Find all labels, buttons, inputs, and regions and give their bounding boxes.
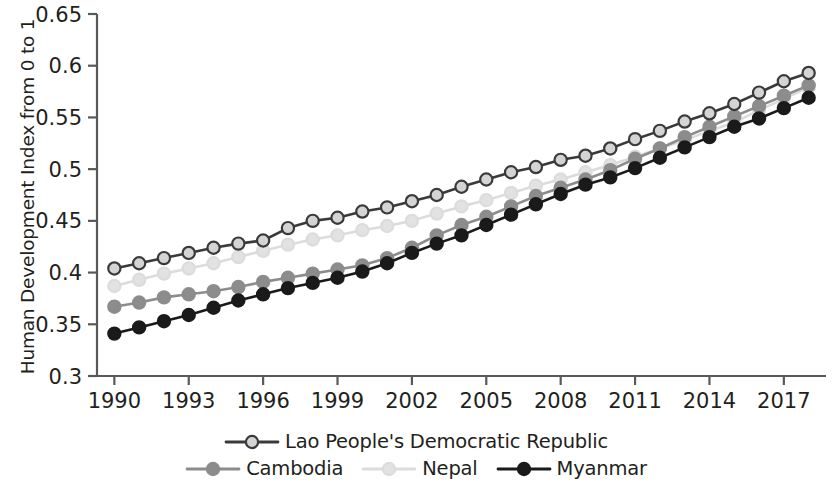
data-point [381,201,393,213]
legend-label: Myanmar [557,457,647,480]
legend-item[interactable]: Lao People's Democratic Republic [224,430,608,453]
x-axis-tick-label: 2002 [385,389,438,413]
data-point [778,75,790,87]
data-point [183,309,195,321]
data-point [406,247,418,259]
data-point [703,131,715,143]
data-point [108,280,120,292]
x-axis-tick-label: 1993 [162,389,215,413]
data-point [555,188,567,200]
x-axis-tick-label: 2017 [757,389,810,413]
data-point [505,209,517,221]
data-point [307,215,319,227]
data-point [207,285,219,297]
line-chart: 0.30.350.40.450.50.550.60.65199019931996… [0,0,832,432]
data-point [803,67,815,79]
legend-marker-icon [361,458,417,480]
data-point [480,219,492,231]
data-point [480,194,492,206]
y-axis-tick-label: 0.5 [49,158,82,182]
data-point [803,79,815,91]
data-point [207,302,219,314]
data-point [480,173,492,185]
x-axis-tick-label: 2005 [460,389,513,413]
legend-marker-icon [185,458,241,480]
data-point [232,294,244,306]
data-point [753,87,765,99]
data-point [207,242,219,254]
data-point [331,272,343,284]
x-axis-tick-label: 1996 [236,389,289,413]
data-point [728,121,740,133]
chart-root: Human Development Index from 0 to 1 0.30… [0,0,832,482]
data-point [133,274,145,286]
series-line [114,85,808,306]
data-point [257,276,269,288]
data-point [158,252,170,264]
data-point [158,315,170,327]
data-point [232,281,244,293]
data-point [307,233,319,245]
data-point [133,321,145,333]
data-point [257,234,269,246]
legend-item[interactable]: Nepal [361,457,477,480]
data-point [356,205,368,217]
data-point [158,268,170,280]
data-point [232,251,244,263]
data-point [530,198,542,210]
data-point [530,161,542,173]
data-point [282,222,294,234]
data-point [753,112,765,124]
y-axis-tick-label: 0.4 [49,261,82,285]
data-point [108,327,120,339]
x-axis-tick-label: 2014 [683,389,736,413]
data-point [356,265,368,277]
legend-label: Lao People's Democratic Republic [285,430,608,453]
data-point [703,107,715,119]
data-point [778,90,790,102]
data-point [455,200,467,212]
legend-row-2: CambodiaNepalMyanmar [0,455,832,482]
data-point [381,220,393,232]
data-point [778,102,790,114]
y-axis-tick-label: 0.55 [35,106,82,130]
data-point [803,92,815,104]
legend-marker-icon [496,458,552,480]
y-axis-tick-label: 0.65 [35,3,82,27]
data-point [282,282,294,294]
y-axis-tick-label: 0.3 [49,365,82,389]
y-axis-tick-label: 0.6 [49,54,82,78]
data-point [629,133,641,145]
data-point [455,229,467,241]
legend-row-1: Lao People's Democratic Republic [0,428,832,455]
y-axis-tick-label: 0.45 [35,209,82,233]
plot-area: 0.30.350.40.450.50.550.60.65199019931996… [0,0,832,432]
data-point [654,125,666,137]
data-point [108,301,120,313]
data-point [108,262,120,274]
data-point [331,229,343,241]
data-point [604,171,616,183]
data-point [257,288,269,300]
legend-item[interactable]: Myanmar [496,457,647,480]
data-point [728,98,740,110]
data-point [232,238,244,250]
x-axis-tick-label: 2011 [608,389,661,413]
data-point [505,166,517,178]
data-point [207,257,219,269]
legend-marker-icon [224,431,280,453]
data-point [331,212,343,224]
data-point [381,257,393,269]
data-point [158,291,170,303]
data-point [629,162,641,174]
legend-item[interactable]: Cambodia [185,457,343,480]
legend-label: Nepal [422,457,477,480]
series-lao-people-s-democratic-republic [108,67,814,275]
data-point [505,187,517,199]
data-point [654,152,666,164]
data-point [183,262,195,274]
data-point [579,179,591,191]
data-point [307,277,319,289]
data-point [282,239,294,251]
data-point [679,115,691,127]
